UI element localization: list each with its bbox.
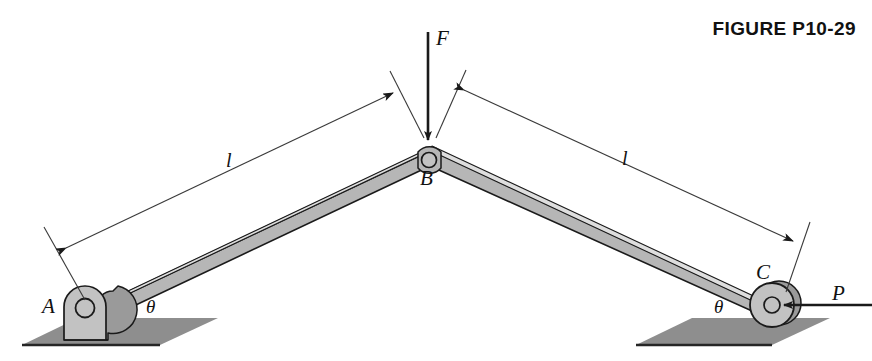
label-length-right: l [622,148,628,168]
mechanism-drawing [0,0,872,361]
label-point-c: C [756,262,770,283]
label-force-p: P [832,283,845,304]
label-point-a: A [42,296,55,317]
bar-ab [85,147,432,329]
figure-title: FIGURE P10-29 [712,18,856,40]
bar-bc [429,146,775,320]
label-force-f: F [436,28,449,49]
label-angle-right: θ [714,297,723,316]
ground-plane-right [636,318,830,345]
figure-canvas: FIGURE P10-29 A B C F P l l θ θ [0,0,872,361]
label-angle-left: θ [146,297,155,316]
label-point-b: B [420,168,433,189]
label-length-left: l [226,150,232,170]
